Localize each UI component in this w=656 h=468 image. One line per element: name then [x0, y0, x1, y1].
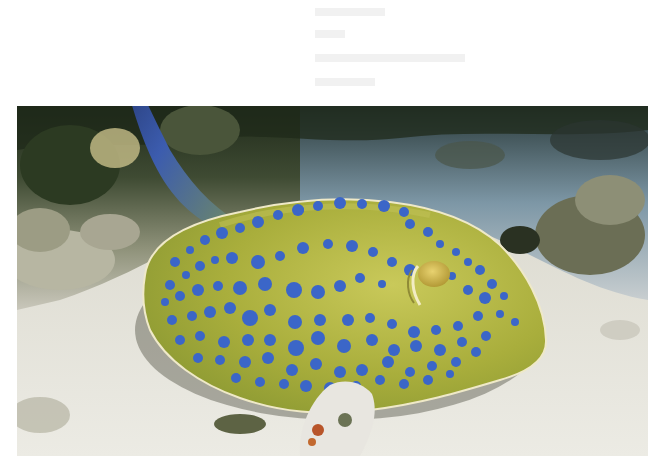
blue-spot: [314, 314, 326, 326]
blue-spot: [286, 282, 302, 298]
blue-spot: [378, 280, 386, 288]
blue-spot: [167, 315, 177, 325]
blue-spot: [279, 379, 289, 389]
blue-spot: [323, 239, 333, 249]
blue-spot: [313, 201, 323, 211]
blue-spot: [286, 364, 298, 376]
blue-spot: [242, 334, 254, 346]
blue-spot: [175, 291, 185, 301]
blue-spot: [195, 331, 205, 341]
blue-spot: [423, 227, 433, 237]
blue-spot: [334, 280, 346, 292]
blue-spot: [311, 331, 325, 345]
blue-spot: [446, 370, 454, 378]
blue-spot: [235, 223, 245, 233]
blue-spot: [264, 304, 276, 316]
blue-spot: [239, 356, 251, 368]
blue-spot: [451, 357, 461, 367]
blue-spot: [399, 207, 409, 217]
blue-spot: [496, 310, 504, 318]
blue-spot: [452, 248, 460, 256]
blue-spot: [405, 219, 415, 229]
blue-spot: [300, 380, 312, 392]
blue-spot: [387, 257, 397, 267]
blue-spot: [334, 197, 346, 209]
blue-spot: [264, 334, 276, 346]
blue-spot: [436, 240, 444, 248]
blue-spot: [275, 251, 285, 261]
blue-spot: [175, 335, 185, 345]
blue-spot: [357, 199, 367, 209]
blue-spot: [193, 353, 203, 363]
blue-spot: [410, 340, 422, 352]
blue-spot: [342, 314, 354, 326]
blue-spot: [431, 325, 441, 335]
blue-spot: [187, 311, 197, 321]
blue-spot: [186, 246, 194, 254]
blue-spot: [216, 227, 228, 239]
blue-spot: [231, 373, 241, 383]
blue-spot: [297, 242, 309, 254]
blue-spot: [337, 339, 351, 353]
blue-spot: [378, 200, 390, 212]
blue-spot: [473, 311, 483, 321]
blue-spot: [479, 292, 491, 304]
blue-spot: [192, 284, 204, 296]
blue-spot: [375, 375, 385, 385]
blue-spot: [481, 331, 491, 341]
blue-spot: [408, 326, 420, 338]
blue-spot: [346, 240, 358, 252]
blue-spot: [233, 281, 247, 295]
blue-spot: [251, 255, 265, 269]
blue-spot: [242, 310, 258, 326]
blue-spot: [471, 347, 481, 357]
blue-spot: [211, 256, 219, 264]
blue-spot: [252, 216, 264, 228]
blue-spot: [170, 257, 180, 267]
blue-spot: [382, 356, 394, 368]
blue-spot: [434, 344, 446, 356]
blue-spot: [226, 252, 238, 264]
blue-spot: [224, 302, 236, 314]
blue-spot: [262, 352, 274, 364]
blue-spot: [500, 292, 508, 300]
blue-spot: [399, 379, 409, 389]
blue-spot: [334, 366, 346, 378]
blue-spot: [388, 344, 400, 356]
blue-spot: [463, 285, 473, 295]
blue-spot: [511, 318, 519, 326]
blue-spot: [355, 273, 365, 283]
blue-spot: [427, 361, 437, 371]
blue-spot: [213, 281, 223, 291]
blue-spot: [311, 285, 325, 299]
blue-spot: [423, 375, 433, 385]
blue-spot: [204, 306, 216, 318]
blue-spot: [288, 340, 304, 356]
blue-spot: [296, 206, 304, 214]
blue-spot: [182, 271, 190, 279]
blue-spot: [356, 364, 368, 376]
blue-spot: [255, 377, 265, 387]
blue-spot: [161, 298, 169, 306]
blue-spot: [368, 247, 378, 257]
blue-spot: [405, 367, 415, 377]
blue-spot: [453, 321, 463, 331]
blue-spot: [218, 336, 230, 348]
blue-spot: [464, 258, 472, 266]
blue-spot: [457, 337, 467, 347]
blue-spot: [288, 315, 302, 329]
blue-spot: [200, 235, 210, 245]
blue-spot: [195, 261, 205, 271]
blue-spot: [273, 210, 283, 220]
blue-spot: [310, 358, 322, 370]
blue-spot: [387, 319, 397, 329]
blue-spot: [165, 280, 175, 290]
blue-spot: [258, 277, 272, 291]
stingray-photo-scene: [0, 0, 656, 468]
blue-spot: [366, 334, 378, 346]
blue-spot: [487, 279, 497, 289]
blue-spot: [365, 313, 375, 323]
blue-spot: [475, 265, 485, 275]
blue-spot: [215, 355, 225, 365]
